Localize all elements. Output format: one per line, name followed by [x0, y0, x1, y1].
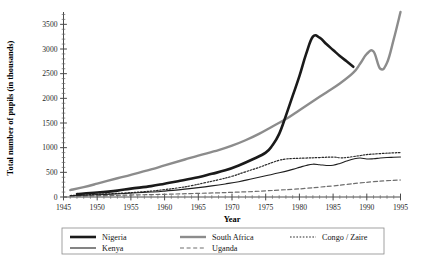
y-tick-label: 3500: [42, 20, 57, 29]
x-tick-label: 1980: [292, 203, 307, 212]
y-tick-label: 2000: [42, 94, 57, 103]
legend-label-south-africa: South Africa: [212, 233, 254, 242]
x-tick-label: 1990: [359, 203, 374, 212]
y-tick-label: 1500: [42, 119, 57, 128]
y-axis-title: Total number of pupils (in thousands): [6, 40, 15, 175]
series-line-nigeria: [77, 35, 353, 194]
series-lines: [70, 12, 400, 196]
y-tick-label: 3000: [42, 45, 57, 54]
x-tick-label: 1995: [393, 203, 408, 212]
y-tick-label: 0: [54, 193, 58, 202]
legend-label-congo-zaire: Congo / Zaire: [322, 233, 368, 242]
chart-figure: 0500100015002000250030003500 19451950195…: [0, 0, 428, 260]
x-tick-label: 1975: [258, 203, 273, 212]
x-tick-label: 1970: [224, 203, 239, 212]
y-axis: 0500100015002000250030003500: [42, 12, 67, 202]
x-axis-title: Year: [224, 215, 241, 224]
x-axis: 1945195019551960196519701975198019851990…: [56, 194, 408, 212]
x-tick-label: 1960: [157, 203, 172, 212]
y-tick-label: 1000: [42, 143, 57, 152]
x-tick-label: 1945: [56, 203, 71, 212]
y-tick-label: 2500: [42, 69, 57, 78]
x-tick-label: 1985: [326, 203, 341, 212]
x-tick-label: 1965: [191, 203, 206, 212]
x-tick-label: 1950: [90, 203, 105, 212]
y-tick-label: 500: [46, 168, 58, 177]
legend-label-kenya: Kenya: [102, 244, 124, 253]
legend-label-nigeria: Nigeria: [102, 233, 127, 242]
x-tick-label: 1955: [123, 203, 138, 212]
legend-label-uganda: Uganda: [212, 244, 238, 253]
series-line-south-africa: [70, 12, 400, 190]
line-chart: 0500100015002000250030003500 19451950195…: [0, 0, 428, 260]
chart-legend: NigeriaKenyaSouth AfricaUgandaCongo / Za…: [62, 228, 384, 254]
